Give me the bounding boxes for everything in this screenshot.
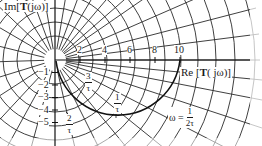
- real-axis-title-bold: T: [200, 66, 207, 78]
- imag-tick-label: −3: [38, 92, 49, 102]
- real-axis-title-prefix: Re [: [181, 66, 200, 78]
- fraction-denominator: 2τ: [186, 118, 194, 128]
- imag-axis-title-prefix: Im[: [4, 0, 20, 12]
- real-tick-label: 4: [102, 45, 107, 55]
- omega-equals-label: ω =: [169, 112, 184, 123]
- fraction-denominator: τ: [86, 83, 90, 93]
- annotation-one-over-tau: 1 τ: [114, 93, 121, 114]
- real-axis-title: Re [T( jω)]: [180, 67, 232, 78]
- imag-tick-label: −4: [38, 105, 49, 115]
- bottom-fade: [0, 138, 262, 146]
- imag-tick-label: −2: [38, 80, 49, 90]
- real-tick-label: 10: [174, 45, 184, 55]
- omega-fraction: 1 2τ: [186, 107, 194, 128]
- real-tick-label: 2: [77, 45, 82, 55]
- real-axis-title-suffix: ( jω)]: [207, 66, 231, 78]
- fraction-numerator: 2: [66, 114, 73, 125]
- real-tick-label: 8: [152, 45, 157, 55]
- fraction-numerator: 3: [85, 72, 92, 83]
- imag-tick-label: −5: [38, 117, 49, 127]
- fraction-denominator: τ: [115, 104, 119, 114]
- imag-axis-title-suffix: (jω)]: [27, 0, 48, 12]
- imag-tick-label: −1: [38, 67, 49, 77]
- fraction-numerator: 1: [187, 107, 194, 118]
- real-tick-label: 6: [127, 45, 132, 55]
- annotation-omega-half-tau: ω = 1 2τ: [168, 107, 195, 128]
- polar-plot-diagram: Im[T(jω)] Re [T( jω)] 2 4 6 8 10 −1 −2 −…: [0, 0, 262, 146]
- fraction-numerator: 1: [114, 93, 121, 104]
- fraction-denominator: τ: [67, 125, 71, 135]
- imag-axis-title: Im[T(jω)]: [3, 1, 50, 12]
- annotation-two-over-tau: 2 τ: [66, 114, 73, 135]
- right-fade: [250, 0, 262, 146]
- annotation-three-over-tau: 3 τ: [85, 72, 92, 93]
